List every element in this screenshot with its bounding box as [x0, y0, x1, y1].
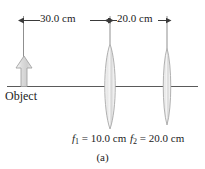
figure-caption: (a)	[0, 152, 205, 163]
focal-subscript-2: 2	[133, 137, 137, 146]
focal-length-label-1: f1 = 10.0 cm	[72, 133, 126, 146]
converging-lens-1	[105, 44, 116, 129]
optics-figure: 30.0 cm 20.0 cm Object f1 = 10.0 cm f2 =…	[0, 0, 205, 169]
converging-lens-2	[163, 48, 171, 125]
object-arrow	[16, 56, 32, 87]
focal-equals-1: =	[82, 132, 88, 144]
dimension-label-30cm: 30.0 cm	[40, 13, 75, 24]
focal-subscript-1: 1	[75, 137, 79, 146]
focal-value-2: 20.0 cm	[149, 132, 184, 144]
focal-length-label-2: f2 = 20.0 cm	[130, 133, 184, 146]
focal-equals-2: =	[140, 132, 146, 144]
focal-value-1: 10.0 cm	[91, 132, 126, 144]
extension-lines	[24, 16, 168, 86]
dimension-label-20cm: 20.0 cm	[117, 13, 152, 24]
object-label: Object	[5, 90, 37, 102]
